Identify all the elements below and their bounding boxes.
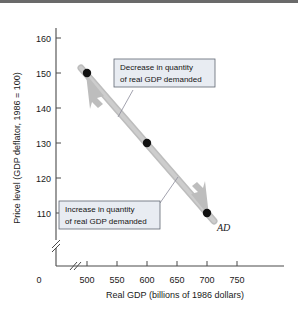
y-axis-title: Price level (GDP deflator, 1986 = 100) bbox=[12, 72, 22, 224]
data-point-600-130 bbox=[143, 139, 151, 147]
data-point-700-110 bbox=[203, 209, 211, 217]
x-origin-label: 0 bbox=[36, 275, 41, 285]
decrease-callout: Decrease in quantity of real GDP demande… bbox=[114, 59, 215, 117]
y-tick-label-160: 160 bbox=[36, 34, 51, 44]
decrease-callout-line2: of real GDP demanded bbox=[120, 75, 202, 84]
y-tick-labels: 160 150 140 130 120 110 bbox=[36, 34, 51, 219]
x-tick-label-500: 500 bbox=[79, 275, 94, 285]
x-axis-title: Real GDP (billions of 1986 dollars) bbox=[106, 290, 244, 300]
x-tick-label-650: 650 bbox=[169, 275, 184, 285]
x-tick-labels: 0 500 550 600 650 700 750 bbox=[36, 275, 244, 285]
y-tick-label-120: 120 bbox=[36, 174, 51, 184]
increase-callout: Increase in quantity of real GDP demande… bbox=[59, 177, 178, 229]
decrease-callout-line1: Decrease in quantity bbox=[120, 63, 193, 72]
y-tick-label-110: 110 bbox=[37, 209, 51, 219]
decrease-callout-leader bbox=[118, 90, 133, 117]
x-tick-group bbox=[87, 261, 237, 266]
data-point-500-150 bbox=[83, 69, 91, 77]
increase-callout-leader bbox=[160, 177, 178, 203]
aggregate-demand-chart: 160 150 140 130 120 110 0 500 550 600 65… bbox=[0, 0, 298, 312]
x-tick-label-700: 700 bbox=[199, 275, 214, 285]
x-tick-label-600: 600 bbox=[139, 275, 154, 285]
increase-callout-line1: Increase in quantity bbox=[65, 205, 134, 214]
y-tick-label-140: 140 bbox=[36, 104, 51, 114]
ad-curve-label: AD bbox=[216, 222, 231, 233]
figure-container: 160 150 140 130 120 110 0 500 550 600 65… bbox=[0, 0, 298, 312]
x-tick-label-750: 750 bbox=[229, 275, 244, 285]
increase-callout-line2: of real GDP demanded bbox=[65, 217, 147, 226]
x-tick-label-550: 550 bbox=[109, 275, 124, 285]
y-tick-label-130: 130 bbox=[36, 139, 51, 149]
y-tick-group bbox=[56, 38, 61, 213]
y-tick-label-150: 150 bbox=[36, 69, 51, 79]
